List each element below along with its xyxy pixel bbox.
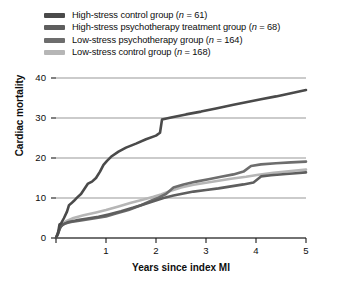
series-line-1 (56, 172, 306, 238)
plot-area: Cardiac mortality Years since index MI 0… (0, 0, 337, 285)
x-tick-label-4: 4 (246, 245, 266, 256)
y-tick-label-30: 30 (22, 112, 46, 123)
x-tick-label-3: 3 (196, 245, 216, 256)
x-tick-label-2: 2 (146, 245, 166, 256)
x-axis-label: Years since index MI (56, 262, 306, 273)
y-tick-label-10: 10 (22, 192, 46, 203)
y-tick-label-40: 40 (22, 72, 46, 83)
x-tick-label-1: 1 (96, 245, 116, 256)
y-tick-label-0: 0 (22, 232, 46, 243)
chart-canvas (0, 0, 337, 285)
y-tick-label-20: 20 (22, 152, 46, 163)
cardiac-mortality-figure: High-stress control group (n = 61) High-… (0, 0, 337, 285)
x-tick-label-5: 5 (296, 245, 316, 256)
